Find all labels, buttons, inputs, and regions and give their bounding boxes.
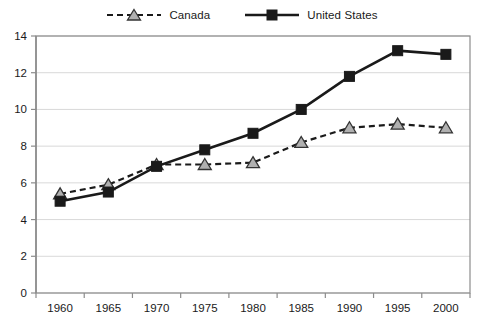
y-axis-tick-label: 12: [14, 67, 27, 79]
data-point-marker-united-states: [200, 145, 210, 155]
data-point-marker-united-states: [248, 128, 258, 138]
data-point-marker-united-states: [152, 161, 162, 171]
data-point-marker-united-states: [393, 46, 403, 56]
x-axis-tick-label: 1995: [385, 302, 411, 314]
y-axis-tick-label: 10: [14, 103, 27, 115]
x-axis-tick-label: 1975: [192, 302, 218, 314]
chart-container: Canada United States 0246810121419601965…: [0, 0, 484, 318]
y-axis-tick-label: 2: [21, 250, 27, 262]
y-axis-tick-label: 0: [21, 287, 27, 299]
x-axis-tick-label: 2000: [433, 302, 459, 314]
x-axis-tick-label: 1980: [240, 302, 266, 314]
data-point-marker-united-states: [441, 49, 451, 59]
y-axis-tick-label: 4: [21, 214, 28, 226]
data-point-marker-united-states: [55, 196, 65, 206]
x-axis-tick-label: 1970: [144, 302, 170, 314]
data-point-marker-united-states: [296, 104, 306, 114]
data-point-marker-united-states: [103, 187, 113, 197]
data-point-marker-united-states: [344, 71, 354, 81]
x-axis-tick-label: 1960: [47, 302, 73, 314]
x-axis-tick-label: 1965: [96, 302, 122, 314]
line-chart-plot: 0246810121419601965197019751980198519901…: [0, 0, 484, 318]
series-line-united-states: [60, 51, 446, 202]
y-axis-tick-label: 6: [21, 177, 27, 189]
x-axis-tick-label: 1990: [337, 302, 363, 314]
y-axis-tick-label: 8: [21, 140, 27, 152]
x-axis-tick-label: 1985: [288, 302, 314, 314]
y-axis-tick-label: 14: [14, 30, 27, 42]
